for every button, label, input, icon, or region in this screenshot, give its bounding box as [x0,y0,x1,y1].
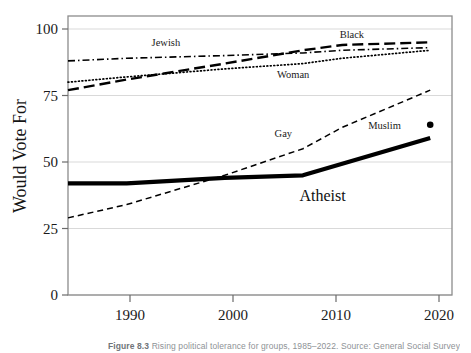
x-axis-ticks [130,295,439,302]
y-tick-label-100: 100 [36,21,59,37]
line-chart: 100 75 50 25 0 Would Vote For 1990 2000 … [0,0,471,353]
x-tick-label-2010: 2010 [321,307,351,323]
y-tick-label-25: 25 [43,221,58,237]
series-label-muslim: Muslim [368,120,401,131]
figure-container: 100 75 50 25 0 Would Vote For 1990 2000 … [0,0,471,353]
series-label-gay: Gay [275,128,293,139]
series-label-black: Black [340,29,365,40]
series-label-woman: Woman [277,69,310,80]
y-axis-ticks [62,29,68,295]
x-tick-label-2000: 2000 [218,307,248,323]
y-tick-label-0: 0 [51,287,59,303]
x-tick-label-1990: 1990 [115,307,145,323]
y-tick-label-75: 75 [43,88,58,104]
figure-caption-body: Rising political tolerance for groups, 1… [152,341,460,351]
figure-caption: Figure 8.3 Rising political tolerance fo… [108,341,460,353]
series-point-muslim [427,121,434,128]
figure-caption-label: Figure 8.3 [108,341,149,351]
series-label-jewish: Jewish [152,37,181,48]
x-tick-label-2020: 2020 [424,307,454,323]
y-axis-title: Would Vote For [10,99,30,213]
y-tick-label-50: 50 [43,154,58,170]
series-label-atheist: Atheist [299,187,346,204]
